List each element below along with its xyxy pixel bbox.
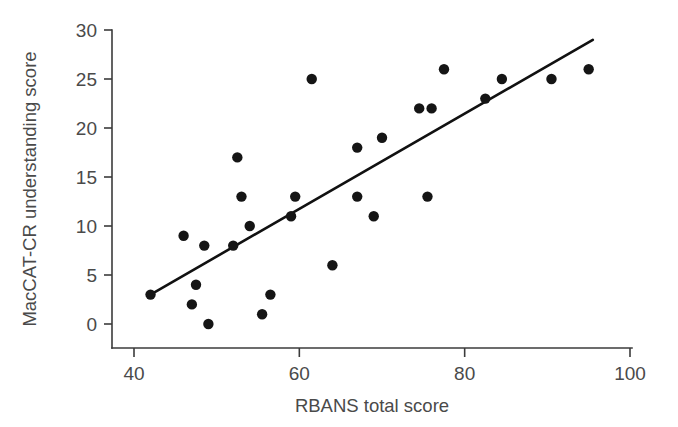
y-tick-label: 15 (76, 167, 97, 188)
x-tick-label: 80 (454, 363, 475, 384)
data-point (439, 64, 449, 74)
x-axis-ticks (134, 348, 630, 357)
y-axis-title: MacCAT-CR understanding score (19, 51, 40, 326)
x-tick-label: 100 (614, 363, 646, 384)
data-point (426, 103, 436, 113)
data-point (369, 211, 379, 221)
y-axis: 051015202530 (76, 20, 112, 349)
data-point (377, 133, 387, 143)
y-tick-label: 30 (76, 20, 97, 41)
data-point (583, 64, 593, 74)
scatter-plot-figure: 051015202530 406080100 RBANS total score… (0, 0, 678, 427)
x-axis-title: RBANS total score (295, 395, 449, 416)
data-point (232, 152, 242, 162)
data-point (414, 103, 424, 113)
data-point (228, 240, 238, 250)
data-point (307, 74, 317, 84)
trend-line (151, 40, 593, 295)
data-point (480, 93, 490, 103)
data-point (257, 309, 267, 319)
y-tick-label: 10 (76, 216, 97, 237)
regression-line-path (151, 40, 593, 295)
data-point (422, 191, 432, 201)
y-axis-tick-labels: 051015202530 (76, 20, 97, 335)
data-point (265, 289, 275, 299)
data-point (327, 260, 337, 270)
x-tick-label: 60 (289, 363, 310, 384)
data-point (546, 74, 556, 84)
data-point (290, 191, 300, 201)
y-tick-label: 25 (76, 69, 97, 90)
x-tick-label: 40 (123, 363, 144, 384)
data-point (203, 319, 213, 329)
data-point (145, 289, 155, 299)
data-point (497, 74, 507, 84)
y-axis-ticks (104, 30, 112, 324)
data-point (245, 221, 255, 231)
data-points (145, 64, 594, 329)
data-point (187, 299, 197, 309)
x-axis: 406080100 (112, 348, 646, 384)
x-axis-tick-labels: 406080100 (123, 363, 645, 384)
data-point (286, 211, 296, 221)
data-point (178, 231, 188, 241)
data-point (236, 191, 246, 201)
data-point (199, 240, 209, 250)
data-point (352, 191, 362, 201)
plot-canvas: 051015202530 406080100 RBANS total score… (0, 0, 678, 427)
y-tick-label: 5 (86, 265, 97, 286)
y-tick-label: 0 (86, 314, 97, 335)
data-point (191, 280, 201, 290)
data-point (352, 142, 362, 152)
y-tick-label: 20 (76, 118, 97, 139)
